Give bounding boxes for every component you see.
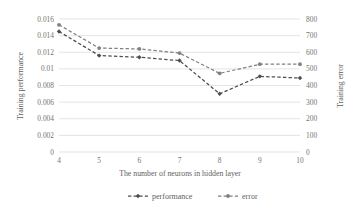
- x-axis-tick-label: 6: [137, 156, 141, 165]
- y-axis-right-tick-label: 600: [306, 48, 317, 57]
- chart-container: 00.0020.0040.0060.0080.010.0120.0140.016…: [0, 0, 364, 209]
- y-axis-right-tick-labels: 0100200300400500600700800: [306, 15, 317, 157]
- data-point-error: [97, 46, 101, 50]
- y-axis-right-tick-label: 0: [306, 148, 310, 157]
- y-axis-left-tick-labels: 00.0020.0040.0060.0080.010.0120.0140.016: [37, 15, 54, 157]
- data-point-error: [57, 23, 61, 27]
- y-axis-left-tick-label: 0.008: [37, 81, 54, 90]
- x-axis-tick-label: 7: [178, 156, 182, 165]
- y-axis-right-tick-label: 200: [306, 114, 317, 123]
- y-axis-left-tick-label: 0.014: [37, 31, 54, 40]
- x-axis-tick-label: 4: [57, 156, 61, 165]
- x-axis-tick-label: 9: [258, 156, 262, 165]
- data-point-error: [298, 62, 302, 66]
- y-axis-left-title: Training performance: [16, 52, 25, 120]
- y-axis-right-tick-label: 500: [306, 64, 317, 73]
- y-axis-right-tick-label: 100: [306, 131, 317, 140]
- y-axis-left-tick-label: 0.002: [37, 131, 54, 140]
- y-axis-left-tick-label: 0.01: [41, 64, 54, 73]
- legend-label-error: error: [242, 192, 258, 201]
- training-performance-error-chart: 00.0020.0040.0060.0080.010.0120.0140.016…: [0, 0, 364, 209]
- data-point-error: [218, 71, 222, 75]
- x-axis-tick-label: 5: [97, 156, 101, 165]
- legend-label-performance: performance: [152, 192, 193, 201]
- x-axis-tick-label: 10: [296, 156, 304, 165]
- y-axis-left-tick-label: 0.012: [37, 48, 54, 57]
- data-point-error: [258, 62, 262, 66]
- y-axis-right-title: Training error: [336, 64, 345, 108]
- data-point-error: [178, 51, 182, 55]
- y-axis-right-tick-label: 800: [306, 15, 317, 24]
- y-axis-right-tick-label: 400: [306, 81, 317, 90]
- x-axis-tick-label: 8: [218, 156, 222, 165]
- y-axis-left-tick-label: 0.006: [37, 98, 54, 107]
- y-axis-right-tick-label: 700: [306, 31, 317, 40]
- x-axis-title: The number of neurons in hidden layer: [119, 169, 241, 178]
- data-point-error: [137, 47, 141, 51]
- y-axis-left-tick-label: 0: [50, 148, 54, 157]
- y-axis-left-tick-label: 0.004: [37, 114, 54, 123]
- y-axis-left-tick-label: 0.016: [37, 15, 54, 24]
- y-axis-right-tick-label: 300: [306, 98, 317, 107]
- legend-marker-error: [226, 194, 230, 198]
